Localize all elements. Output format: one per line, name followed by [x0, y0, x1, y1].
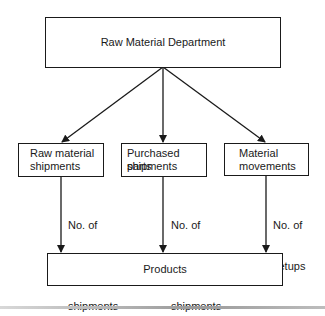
arrow-root-to-material-movements	[163, 67, 265, 142]
activity-box-purchased-parts-shipments: Purchased parts shipments	[121, 143, 207, 177]
activity-box-material-movements: Material movements	[224, 143, 309, 176]
bottom-divider	[0, 306, 325, 309]
products-label: Products	[48, 263, 282, 276]
root-box: Raw Material Department	[45, 17, 281, 68]
activity-label-line1: Material	[239, 147, 278, 160]
activity-label-line2: shipments	[30, 160, 80, 173]
products-box: Products	[47, 253, 283, 286]
activity-label-line1: Raw material	[30, 147, 94, 160]
driver-line: No. of	[273, 219, 305, 233]
activity-label-line2: shipments	[127, 160, 177, 173]
root-label: Raw Material Department	[46, 36, 280, 49]
activity-label-line2: movements	[239, 160, 296, 173]
activity-box-raw-material-shipments: Raw material shipments	[18, 143, 104, 177]
arrow-root-to-raw-material-shipments	[62, 67, 163, 142]
driver-line: No. of	[68, 219, 128, 233]
driver-line: No. of	[171, 219, 250, 233]
